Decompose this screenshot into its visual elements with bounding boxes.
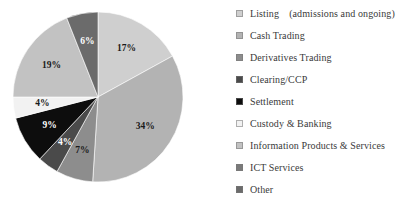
pie-data-label: 34%: [136, 121, 155, 131]
legend-item[interactable]: ICT Services: [236, 157, 404, 179]
legend-item-label: Listing (admissions and ongoing): [250, 3, 395, 25]
pie-data-label: 9%: [43, 120, 57, 130]
legend-swatch-icon: [236, 10, 243, 17]
legend-item-label: Other: [250, 179, 273, 201]
pie-slice-group: [13, 12, 183, 182]
legend-item[interactable]: Cash Trading: [236, 25, 404, 47]
legend-item[interactable]: Listing (admissions and ongoing): [236, 3, 404, 25]
pie-data-label: 4%: [58, 137, 72, 147]
legend-item-label: Cash Trading: [250, 25, 305, 47]
legend-swatch-icon: [236, 120, 243, 127]
legend-item-label: Settlement: [250, 91, 294, 113]
legend-item-label: Derivatives Trading: [250, 47, 332, 69]
legend-swatch-icon: [236, 142, 243, 149]
pie-svg: 17%34%7%4%9%4%19%6%: [12, 11, 184, 183]
legend-item[interactable]: Clearing/CCP: [236, 69, 404, 91]
legend-item[interactable]: Settlement: [236, 91, 404, 113]
legend-swatch-icon: [236, 32, 243, 39]
legend-item-label: Custody & Banking: [250, 113, 332, 135]
legend-swatch-icon: [236, 186, 243, 193]
pie-chart-plot-area: 17%34%7%4%9%4%19%6%: [12, 11, 184, 183]
legend-item[interactable]: Derivatives Trading: [236, 47, 404, 69]
legend-swatch-icon: [236, 98, 243, 105]
pie-data-label: 7%: [75, 145, 89, 155]
legend-item-label: Information Products & Services: [250, 135, 385, 157]
chart-legend: Listing (admissions and ongoing)Cash Tra…: [236, 3, 404, 201]
legend-swatch-icon: [236, 54, 243, 61]
legend-swatch-icon: [236, 76, 243, 83]
legend-swatch-icon: [236, 164, 243, 171]
legend-item-label: ICT Services: [250, 157, 304, 179]
legend-item-label: Clearing/CCP: [250, 69, 307, 91]
legend-item[interactable]: Information Products & Services: [236, 135, 404, 157]
pie-data-label: 4%: [35, 98, 49, 108]
pie-data-label: 17%: [117, 43, 136, 53]
pie-data-label: 6%: [80, 36, 94, 46]
legend-item[interactable]: Other: [236, 179, 404, 201]
pie-data-label: 19%: [42, 60, 61, 70]
pie-chart-figure: 17%34%7%4%9%4%19%6% Listing (admissions …: [0, 0, 404, 207]
legend-item[interactable]: Custody & Banking: [236, 113, 404, 135]
